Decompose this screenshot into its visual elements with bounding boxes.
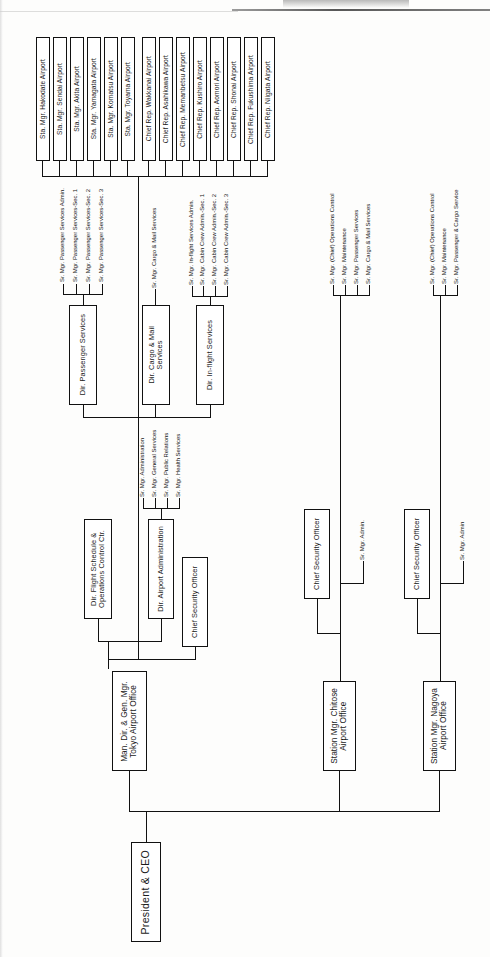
manager-label-chitose-admin: Sr. Mgr. Admin. <box>360 500 366 560</box>
manager-bus-drop <box>83 294 84 305</box>
directorate-box-passenger-services[interactable]: Dir. Passenger Services <box>69 305 97 405</box>
leaf-box-kushiro[interactable]: Chief Rep. Kushiro Airport <box>193 37 207 161</box>
manager-label-cabin-sec1: Sr. Mgr. Cabin Crew Admin.-Sec. 1 <box>200 189 206 285</box>
leaf-label: Chief Rep. Memanbetsu Airport <box>179 52 186 147</box>
directorate-label: Dir. In-flight Services <box>206 320 214 390</box>
directorate-drop-flight-schedule <box>98 619 99 641</box>
chitose-trunk <box>340 295 341 681</box>
security-officer-box-tokyo[interactable]: Chief Security Officer <box>182 557 208 647</box>
security-officer-box-chitose[interactable]: Chief Security Officer <box>304 509 330 599</box>
manager-stub <box>203 286 204 296</box>
tokyo-trunk <box>108 641 109 669</box>
manager-stub <box>102 284 103 294</box>
security-officer-drop-tokyo <box>195 647 196 659</box>
directorate-label: Dir. Cargo & Mail Services <box>148 326 165 384</box>
tokyo-to-ceo-drop <box>129 771 130 811</box>
leaf-box-asahikawa[interactable]: Chief Rep. Asahikawa Airport <box>159 37 173 161</box>
exec-box-nagoya-airport-office[interactable]: Station Mgr. Nagoya Airport Office <box>423 681 456 771</box>
leaf-box-wakkanai[interactable]: Chief Rep. Wakkanai Airport <box>142 37 156 161</box>
leaf-label: Chief Rep. Shonai Airport <box>230 61 237 138</box>
directorate-label: Dir. Passenger Services <box>79 314 87 395</box>
leaf-label: Sta. Mgr. Sendai Airport <box>56 63 63 135</box>
security-officer-label: Chief Security Officer <box>191 566 199 638</box>
leaf-box-fukushima[interactable]: Chief Rep. Fukushima Airport <box>244 37 258 161</box>
nagoya-trunk <box>440 295 441 681</box>
directorate-box-airport-administration[interactable]: Dir. Airport Administration <box>148 519 174 619</box>
manager-stub-chitose-admin <box>363 561 364 583</box>
manager-stub-nagoya-admin <box>463 561 464 583</box>
manager-label-health-services: Sr. Mgr. Health Services <box>176 425 182 497</box>
leaf-label: Sta. Mgr. Yamagata Airport <box>90 58 97 139</box>
manager-stub <box>369 285 370 295</box>
directorate-drop-inflight <box>210 405 211 417</box>
exec-box-president-ceo[interactable]: President & CEO <box>131 842 161 942</box>
ceo-bus-drop <box>146 811 147 842</box>
manager-stub <box>357 285 358 295</box>
manager-label-inflight-admin: Sr. Mgr. In-flight Services Admin. <box>189 189 195 285</box>
manager-stub <box>155 289 156 305</box>
leaf-stub <box>267 161 268 176</box>
org-chart-canvas: Sta. Mgr. Hakodate Airport Sta. Mgr. Sen… <box>0 0 490 957</box>
manager-stub <box>63 284 64 294</box>
manager-label-general-services: Sr. Mgr. General Services <box>152 425 158 497</box>
scan-artifact-top-text <box>283 0 409 8</box>
directorate-box-flight-schedule[interactable]: Dir. Flight Schedule & Operations Contro… <box>84 519 112 619</box>
leaf-bus-line <box>42 176 268 177</box>
leaf-box-niigata[interactable]: Chief Rep. Niigata Airport <box>261 37 275 161</box>
directorate-label: Dir. Flight Schedule & Operations Contro… <box>90 530 107 608</box>
leaf-box-memanbetsu[interactable]: Chief Rep. Memanbetsu Airport <box>176 37 190 161</box>
leaf-stub <box>93 161 94 176</box>
directorate-label: Dir. Airport Administration <box>157 526 165 612</box>
leaf-stub <box>182 161 183 176</box>
exec-label: Station Mgr. Nagoya Airport Office <box>430 688 448 764</box>
leaf-box-yamagata[interactable]: Sta. Mgr. Yamagata Airport <box>87 37 101 161</box>
manager-label-nagoya-admin: Sr. Mgr. Admin <box>460 500 466 560</box>
leaf-stub <box>59 161 60 176</box>
manager-stub <box>433 285 434 295</box>
manager-stub <box>333 285 334 295</box>
leaf-stub <box>148 161 149 176</box>
directorate-join-inflight <box>138 417 211 418</box>
leaf-label: Sta. Mgr. Hakodate Airport <box>39 59 46 139</box>
manager-label-pax-sec3: Sr. Mgr. Passenger Services-Sec. 3 <box>99 186 105 282</box>
leaf-label: Sta. Mgr. Akita Airport <box>73 66 80 132</box>
security-officer-box-nagoya[interactable]: Chief Security Officer <box>404 509 430 599</box>
exec-box-tokyo-airport-office[interactable]: Man. Dir. & Gen. Mgr. Tokyo Airport Offi… <box>112 671 147 771</box>
leaf-box-sendai[interactable]: Sta. Mgr. Sendai Airport <box>53 37 67 161</box>
manager-join-nagoya-admin <box>440 583 464 584</box>
leaf-stub <box>76 161 77 176</box>
leaf-box-komatsu[interactable]: Sta. Mgr. Komatsu Airport <box>104 37 118 161</box>
page-edge-shadow <box>0 0 3 957</box>
page-header-rule <box>232 9 490 11</box>
leaf-box-toyama[interactable]: Sta. Mgr. Toyama Airport <box>121 37 135 161</box>
leaf-box-shonai[interactable]: Chief Rep. Shonai Airport <box>227 37 241 161</box>
leaf-box-hakodate[interactable]: Sta. Mgr. Hakodate Airport <box>36 37 50 161</box>
manager-stub <box>167 498 168 508</box>
manager-bus-nagoya <box>433 295 458 296</box>
leaf-stub <box>233 161 234 176</box>
manager-stub <box>155 498 156 508</box>
nagoya-to-ceo-drop <box>439 771 440 811</box>
manager-label-cabin-sec2: Sr. Mgr. Cabin Crew Admin.-Sec. 2 <box>212 189 218 285</box>
manager-stub <box>76 284 77 294</box>
manager-stub <box>89 284 90 294</box>
directorate-drop-passenger-services <box>83 405 84 417</box>
directorate-box-inflight-services[interactable]: Dir. In-flight Services <box>196 305 224 405</box>
directorate-box-cargo-mail-services[interactable]: Dir. Cargo & Mail Services <box>142 305 170 405</box>
manager-stub <box>215 286 216 296</box>
manager-label-administration: Sr. Mgr. Administration <box>140 425 146 497</box>
manager-label-cabin-sec3: Sr. Mgr. Cabin Crew Admin.-Sec. 3 <box>224 189 230 285</box>
leaf-stub <box>42 161 43 176</box>
security-officer-drop-chitose <box>317 599 318 633</box>
leaf-box-aomori[interactable]: Chief Rep. Aomori Airport <box>210 37 224 161</box>
manager-label-chitose-passenger-services: Sr. Mgr. Passenger Services <box>354 180 360 284</box>
leaf-stub <box>165 161 166 176</box>
leaf-label: Chief Rep. Wakkanai Airport <box>145 56 152 141</box>
manager-label-nagoya-passenger-cargo: Sr. Mgr. Passenger & Cargo Service <box>454 180 460 284</box>
manager-stub <box>345 285 346 295</box>
manager-join-chitose-admin <box>340 583 364 584</box>
manager-stub <box>227 286 228 296</box>
leaf-box-akita[interactable]: Sta. Mgr. Akita Airport <box>70 37 84 161</box>
directorate-drop-airport-admin <box>161 619 162 641</box>
exec-box-chitose-airport-office[interactable]: Station Mgr. Chitose Airport Office <box>323 681 356 771</box>
